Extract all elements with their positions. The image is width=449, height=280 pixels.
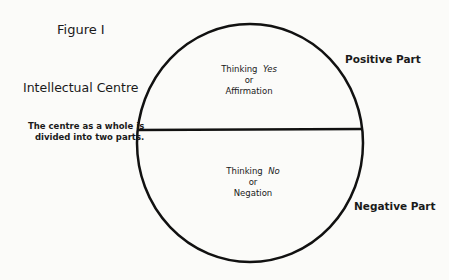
intellectual-centre-circle [137, 24, 363, 262]
figure-title: Figure I [57, 22, 105, 37]
lower-line-1-emph: No [268, 166, 280, 176]
centre-label: Intellectual Centre [23, 80, 138, 95]
division-note: The centre as a whole is divided into tw… [28, 121, 144, 143]
upper-line-1: Thinking Yes [189, 64, 309, 75]
note-line-1: The centre as a whole is [28, 121, 144, 132]
upper-half-text: Thinking Yes or Affirmation [189, 64, 309, 97]
lower-line-2: or [193, 177, 313, 188]
lower-line-1: Thinking No [193, 166, 313, 177]
note-line-2: divided into two parts. [28, 132, 144, 143]
upper-line-1-emph: Yes [263, 64, 277, 74]
upper-line-3: Affirmation [189, 86, 309, 97]
lower-line-1-prefix: Thinking [226, 166, 262, 176]
dividing-line [137, 129, 363, 130]
positive-part-label: Positive Part [345, 53, 421, 65]
lower-half-text: Thinking No or Negation [193, 166, 313, 199]
upper-line-1-prefix: Thinking [221, 64, 257, 74]
negative-part-label: Negative Part [354, 200, 435, 212]
lower-line-3: Negation [193, 188, 313, 199]
upper-line-2: or [189, 75, 309, 86]
